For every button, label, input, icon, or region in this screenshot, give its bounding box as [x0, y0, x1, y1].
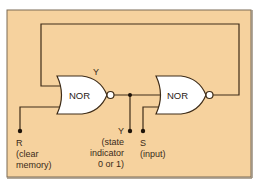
- nor-gate-2-label: NOR: [167, 90, 188, 101]
- nor-gate-2-inverter-bubble: [206, 92, 213, 99]
- gate-1-output-label: Y: [93, 67, 99, 77]
- nor-gate-1-label: NOR: [69, 90, 90, 101]
- r-terminal-desc-1: (clear: [16, 149, 39, 159]
- junction-dot: [128, 93, 132, 97]
- sr-latch-diagram: NOR Y NOR R (clear memory) Y (state indi…: [0, 0, 257, 184]
- s-terminal-dot: [141, 129, 145, 133]
- y-terminal-desc-2: indicator: [90, 148, 124, 158]
- r-terminal-dot: [18, 129, 22, 133]
- y-terminal-desc-3: 0 or 1): [98, 159, 124, 169]
- nor-gate-1-inverter-bubble: [107, 92, 114, 99]
- s-terminal-label: S: [140, 138, 146, 148]
- y-terminal-dot: [128, 129, 132, 133]
- s-terminal-desc-1: (input): [140, 149, 166, 159]
- y-terminal-desc-1: (state: [101, 137, 124, 147]
- r-terminal-label: R: [16, 138, 23, 148]
- y-terminal-label: Y: [118, 126, 124, 136]
- r-terminal-desc-2: memory): [16, 160, 52, 170]
